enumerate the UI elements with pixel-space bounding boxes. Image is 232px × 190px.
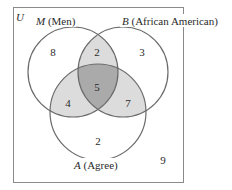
region-m-a-only: 4: [65, 97, 71, 109]
set-a-label: A (Agree): [73, 159, 118, 172]
region-m-only: 8: [50, 46, 56, 58]
region-outside: 9: [160, 154, 166, 166]
set-b-label: B (African American): [122, 15, 218, 28]
region-b-only: 3: [139, 46, 145, 58]
universe-label: U: [16, 11, 25, 23]
region-b-a-only: 7: [125, 97, 131, 109]
region-m-b-only: 2: [94, 46, 100, 58]
region-m-b-a: 5: [94, 81, 100, 93]
venn-diagram: U M (Men) B (African American) A (Agree)…: [0, 0, 232, 190]
set-m-label: M (Men): [35, 15, 76, 28]
region-a-only: 2: [95, 135, 101, 147]
